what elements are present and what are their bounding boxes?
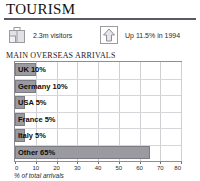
tourism-infographic-panel: TOURISM 2.3m visitors Up 11.5% in 1994 M… [0, 0, 200, 181]
stat-visitors-label: 2.3m visitors [33, 31, 72, 40]
axis-tick-label: 50 [115, 164, 122, 172]
axis-tick-label: 80 [174, 164, 181, 172]
chart-bar-label: Italy 5% [18, 130, 46, 141]
chart-bar-row: Other 65% [15, 145, 181, 162]
chart-bar-label: Other 65% [18, 147, 55, 158]
axis-tick-label: 40 [95, 164, 102, 172]
chart-section-header: MAIN OVERSEAS ARRIVALS [4, 51, 196, 61]
axis-tick-label: 60 [136, 164, 143, 172]
chart-bar-row: USA 5% [15, 95, 181, 112]
stat-growth-label: Up 11.5% in 1994 [125, 31, 180, 40]
title-divider [4, 18, 196, 20]
suitcase-icon [6, 24, 28, 46]
chart-bar-row: UK 10% [15, 62, 181, 79]
chart-bar-row: Germany 10% [15, 79, 181, 96]
chart-bar-row: Italy 5% [15, 128, 181, 145]
chart-x-axis-label: % of total arrivals [14, 172, 64, 180]
axis-tick-mark [181, 162, 182, 164]
axis-tick-label: 20 [53, 164, 60, 172]
stat-visitors: 2.3m visitors [6, 24, 98, 46]
axis-tick-label: 30 [74, 164, 81, 172]
stats-row: 2.3m visitors Up 11.5% in 1994 [4, 22, 196, 48]
chart-bar-label: UK 10% [18, 64, 46, 75]
chart-bar-label: USA 5% [18, 97, 46, 108]
axis-tick-label: 0 [15, 164, 18, 172]
chart-plot-area: UK 10%Germany 10%USA 5%France 5%Italy 5%… [14, 61, 182, 162]
axis-tick-label: 10 [32, 164, 39, 172]
chart-bar-label: Germany 10% [18, 81, 68, 92]
gridline-vertical [181, 62, 182, 161]
overseas-arrivals-bar-chart: UK 10%Germany 10%USA 5%France 5%Italy 5%… [14, 61, 182, 162]
axis-tick-label: 70 [157, 164, 164, 172]
chart-bar-label: France 5% [18, 114, 56, 125]
stat-growth: Up 11.5% in 1994 [98, 24, 180, 46]
up-arrow-icon [98, 24, 120, 46]
chart-bar-row: France 5% [15, 112, 181, 129]
page-title: TOURISM [4, 0, 196, 17]
